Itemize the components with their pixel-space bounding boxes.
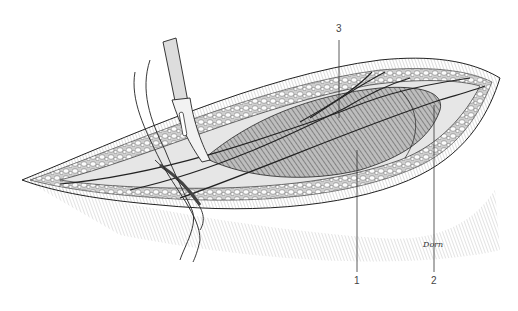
label-2: 2 [431, 276, 437, 286]
label-1: 1 [354, 276, 360, 286]
label-3: 3 [336, 24, 342, 34]
surgical-illustration [0, 0, 518, 311]
artist-signature: Dorn [423, 240, 443, 249]
